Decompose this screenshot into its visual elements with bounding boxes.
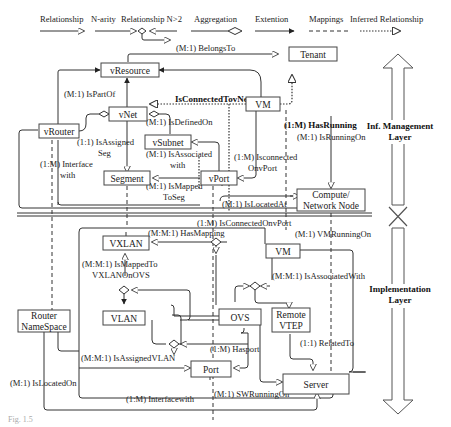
layer-label-impl-2: Layer <box>389 295 412 305</box>
svg-text:(M:1) IsDefinedOn: (M:1) IsDefinedOn <box>146 117 213 127</box>
svg-text:(1:M) Hasport: (1:M) Hasport <box>210 344 260 354</box>
svg-text:(M:1) VMRunningOn: (M:1) VMRunningOn <box>295 229 372 239</box>
svg-text:(1:1) IsAssigned: (1:1) IsAssigned <box>77 137 135 147</box>
svg-text:VTEP: VTEP <box>279 321 303 331</box>
svg-text:vSubnet: vSubnet <box>152 138 184 148</box>
figure-caption: Fig. 1.5 <box>8 415 33 424</box>
entity-ovs[interactable]: OVS <box>219 309 261 325</box>
entity-router-namespace[interactable]: Router NameSpace <box>18 310 70 332</box>
legend-inferred: Inferred Relationship <box>350 14 423 24</box>
svg-text:vResource: vResource <box>110 66 150 76</box>
entity-port[interactable]: Port <box>191 361 231 377</box>
svg-text:Port: Port <box>203 365 219 375</box>
svg-text:(1:M) HasRunning: (1:M) HasRunning <box>284 120 357 130</box>
svg-text:Remote: Remote <box>276 310 306 320</box>
svg-text:Seg: Seg <box>98 148 112 158</box>
entity-vm-bottom[interactable]: VM <box>266 244 300 258</box>
layer-cross <box>389 207 407 226</box>
legend-narity-branch <box>142 34 170 40</box>
svg-text:(1:M) IsConnectedOnvPort: (1:M) IsConnectedOnvPort <box>197 218 292 228</box>
svg-text:Router: Router <box>31 311 58 321</box>
entity-vlan[interactable]: VLAN <box>103 311 145 325</box>
layer-label-inf: Inf. Management <box>367 121 434 131</box>
svg-text:ToSeg: ToSeg <box>163 192 186 202</box>
entity-compute-node[interactable]: Compute/ Network Node <box>297 189 365 211</box>
legend-n-arity: N-arity <box>91 14 117 24</box>
entity-vrouter[interactable]: vRouter <box>39 124 79 138</box>
svg-text:vNet: vNet <box>119 110 138 120</box>
entity-vresource[interactable]: vResource <box>101 63 159 77</box>
legend-extention: Extention <box>255 14 289 24</box>
svg-text:VM: VM <box>275 247 291 257</box>
svg-text:(1:M) Interfacewith: (1:M) Interfacewith <box>126 394 195 404</box>
svg-text:OnvPort: OnvPort <box>248 163 278 173</box>
svg-text:(M:1) IsLocatedOn: (M:1) IsLocatedOn <box>10 378 77 388</box>
svg-text:vRouter: vRouter <box>44 127 75 137</box>
svg-text:(M:M:1) IsAssignedVLAN: (M:M:1) IsAssignedVLAN <box>81 353 176 363</box>
svg-text:with: with <box>170 160 186 170</box>
svg-text:(M:1) IsLocatedAt: (M:1) IsLocatedAt <box>222 199 287 209</box>
svg-text:OVS: OVS <box>230 313 249 323</box>
svg-text:(M:M:1) IsMappedTo: (M:M:1) IsMappedTo <box>82 259 158 269</box>
svg-text:VXLANOnOVS: VXLANOnOVS <box>92 270 150 280</box>
svg-text:(1:1) RelatedTo: (1:1) RelatedTo <box>300 338 354 348</box>
svg-text:VXLAN: VXLAN <box>109 239 142 249</box>
svg-text:vPort: vPort <box>209 174 230 184</box>
entity-vsubnet[interactable]: vSubnet <box>145 135 191 149</box>
svg-text:Tenant: Tenant <box>300 50 326 60</box>
layer-label-impl: Implementation <box>369 284 431 294</box>
entity-tenant[interactable]: Tenant <box>289 47 337 61</box>
svg-text:VLAN: VLAN <box>111 314 138 324</box>
layer-label-inf-2: Layer <box>389 132 412 142</box>
legend-aggregation: Aggregation <box>194 14 238 24</box>
legend-narity-diamond <box>138 28 146 34</box>
svg-text:Server: Server <box>304 380 330 390</box>
entity-vnet[interactable]: vNet <box>109 107 147 121</box>
entity-remote-vtep[interactable]: Remote VTEP <box>272 308 310 332</box>
legend-relationship: Relationship <box>40 14 83 24</box>
svg-text:(M:M:1) IsAssociatedWith: (M:M:1) IsAssociatedWith <box>272 271 366 281</box>
entity-server[interactable]: Server <box>283 374 349 394</box>
svg-text:VM: VM <box>255 100 271 110</box>
legend-relationship-n2: Relationship N>2 <box>121 14 182 24</box>
svg-text:(M:1) BelongsTo: (M:1) BelongsTo <box>176 43 235 53</box>
ontology-diagram: Relationship N-arity Relationship N>2 Ag… <box>0 0 451 427</box>
svg-text:(1:M) Isconnected: (1:M) Isconnected <box>234 152 298 162</box>
svg-text:IsConnectedTovNet: IsConnectedTovNet <box>175 94 251 104</box>
legend-aggregation-diamond <box>228 28 242 35</box>
svg-text:(M:1) IsMapped: (M:1) IsMapped <box>146 181 203 191</box>
svg-text:(M:1) SWRunningOn: (M:1) SWRunningOn <box>214 389 290 399</box>
legend: Relationship N-arity Relationship N>2 Ag… <box>40 14 423 40</box>
entity-vm-top[interactable]: VM <box>246 97 280 111</box>
svg-text:with: with <box>60 170 76 180</box>
entity-vxlan[interactable]: VXLAN <box>103 236 149 250</box>
entity-vport[interactable]: vPort <box>201 171 237 185</box>
svg-text:Network Node: Network Node <box>303 201 359 211</box>
entity-segment[interactable]: Segment <box>104 171 150 185</box>
layer-arrows: Inf. Management Layer Implementation Lay… <box>360 54 440 414</box>
svg-text:(1:M) Interface: (1:M) Interface <box>40 159 93 169</box>
svg-text:(M:M:1) HasMapping: (M:M:1) HasMapping <box>148 228 225 238</box>
svg-text:Compute/: Compute/ <box>312 190 350 200</box>
svg-text:(M:1) IsRunningOn: (M:1) IsRunningOn <box>297 132 366 142</box>
legend-mappings: Mappings <box>309 14 344 24</box>
svg-text:(M:1) IsAssociated: (M:1) IsAssociated <box>146 149 213 159</box>
svg-text:(M:1) IsPartOf: (M:1) IsPartOf <box>64 89 115 99</box>
svg-text:Segment: Segment <box>110 174 144 184</box>
svg-text:NameSpace: NameSpace <box>21 322 66 332</box>
implementation-arrow <box>383 228 413 414</box>
